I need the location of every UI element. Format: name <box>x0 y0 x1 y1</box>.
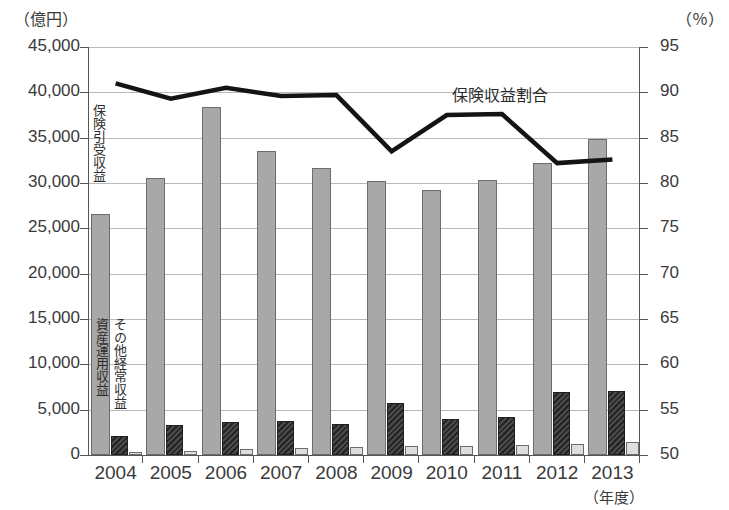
left-axis-tick-label: 20,000 <box>2 263 80 283</box>
bar-other-ordinary-income <box>405 446 418 455</box>
left-axis-tickmark <box>80 410 88 411</box>
bar-asset-management-income <box>387 403 404 455</box>
gridline <box>89 319 639 320</box>
left-axis-tickmark <box>80 319 88 320</box>
right-axis-tick-label: 85 <box>660 127 679 147</box>
left-axis-tick-label: 0 <box>2 444 80 464</box>
right-axis-tick-label: 65 <box>660 308 679 328</box>
right-axis-tick-label: 60 <box>660 353 679 373</box>
left-axis-tickmark <box>80 47 88 48</box>
bar-asset-management-income <box>608 391 625 455</box>
left-axis-tick-label: 15,000 <box>2 308 80 328</box>
x-axis-tick-label: 2012 <box>530 462 585 484</box>
left-axis-tickmark <box>80 138 88 139</box>
bar-other-ordinary-income <box>350 447 363 455</box>
right-axis-tick-label: 90 <box>660 81 679 101</box>
x-axis-unit-label: （年度） <box>584 486 644 507</box>
left-axis-tick-label: 25,000 <box>2 217 80 237</box>
x-axis-tick-label: 2013 <box>585 462 640 484</box>
left-axis-tickmark <box>80 455 88 456</box>
right-axis-tickmark <box>640 274 648 275</box>
x-axis-tick-label: 2008 <box>309 462 364 484</box>
right-axis-tickmark <box>640 183 648 184</box>
right-axis-tickmark <box>640 47 648 48</box>
bar-insurance-underwriting-income <box>533 163 552 455</box>
bar-insurance-underwriting-income <box>367 181 386 455</box>
gridline <box>89 92 639 93</box>
right-axis-tick-label: 80 <box>660 172 679 192</box>
annotation-insurance-underwriting-income: 保険引受収益 <box>92 104 105 182</box>
gridline <box>89 364 639 365</box>
bar-asset-management-income <box>553 392 570 455</box>
bar-asset-management-income <box>442 419 459 455</box>
bar-insurance-underwriting-income <box>202 107 221 455</box>
gridline <box>89 274 639 275</box>
left-axis-tick-label: 40,000 <box>2 81 80 101</box>
right-axis-tick-label: 55 <box>660 399 679 419</box>
right-axis-tickmark <box>640 138 648 139</box>
annotation-insurance-revenue-ratio: 保険収益割合 <box>452 82 548 106</box>
bar-asset-management-income <box>166 425 183 455</box>
gridline <box>89 183 639 184</box>
x-axis-tick-label: 2009 <box>364 462 419 484</box>
annotation-asset-management-income: 資産運用収益 <box>95 318 108 396</box>
bar-insurance-underwriting-income <box>146 178 165 455</box>
gridline <box>89 228 639 229</box>
right-axis-tick-label: 75 <box>660 217 679 237</box>
x-axis-tick-label: 2004 <box>88 462 143 484</box>
annotation-other-ordinary-income: その他経常収益 <box>113 318 126 409</box>
right-axis-tick-label: 70 <box>660 263 679 283</box>
bar-insurance-underwriting-income <box>422 190 441 455</box>
left-axis-tickmark <box>80 228 88 229</box>
right-axis-unit-label: （％） <box>676 6 724 30</box>
bar-asset-management-income <box>111 436 128 455</box>
chart-root: （億円） （％） 05,00010,00015,00020,00025,0003… <box>0 0 729 510</box>
bar-other-ordinary-income <box>295 448 308 455</box>
left-axis-tick-label: 10,000 <box>2 353 80 373</box>
right-axis-tickmark <box>640 92 648 93</box>
bar-other-ordinary-income <box>626 442 639 455</box>
bar-other-ordinary-income <box>460 446 473 455</box>
bar-insurance-underwriting-income <box>312 168 331 455</box>
x-axis-tick-label: 2006 <box>198 462 253 484</box>
x-axis-tick-label: 2011 <box>474 462 529 484</box>
right-axis-tickmark <box>640 410 648 411</box>
bar-asset-management-income <box>498 417 515 455</box>
x-axis-tick-label: 2005 <box>143 462 198 484</box>
left-axis-tickmark <box>80 364 88 365</box>
left-axis-tick-label: 45,000 <box>2 36 80 56</box>
left-axis-tick-label: 5,000 <box>2 399 80 419</box>
bar-insurance-underwriting-income <box>588 139 607 455</box>
plot-area <box>88 47 640 455</box>
left-axis-tickmark <box>80 183 88 184</box>
right-axis-tick-label: 50 <box>660 444 679 464</box>
left-axis-tick-label: 35,000 <box>2 127 80 147</box>
bar-other-ordinary-income <box>571 444 584 455</box>
left-axis-tick-label: 30,000 <box>2 172 80 192</box>
gridline <box>89 47 639 48</box>
x-axis-tick-label: 2010 <box>419 462 474 484</box>
bar-insurance-underwriting-income <box>257 151 276 455</box>
left-axis-unit-label: （億円） <box>14 6 78 30</box>
bar-insurance-underwriting-income <box>478 180 497 455</box>
left-axis-tickmark <box>80 274 88 275</box>
gridline <box>89 138 639 139</box>
x-axis-tick-label: 2007 <box>254 462 309 484</box>
right-axis-tickmark <box>640 364 648 365</box>
x-axis-tickmark <box>639 455 640 463</box>
right-axis-tickmark <box>640 455 648 456</box>
bar-asset-management-income <box>277 421 294 455</box>
right-axis-tickmark <box>640 319 648 320</box>
right-axis-tickmark <box>640 228 648 229</box>
bar-other-ordinary-income <box>516 445 529 455</box>
bar-asset-management-income <box>222 422 239 455</box>
left-axis-tickmark <box>80 92 88 93</box>
right-axis-tick-label: 95 <box>660 36 679 56</box>
bar-asset-management-income <box>332 424 349 455</box>
